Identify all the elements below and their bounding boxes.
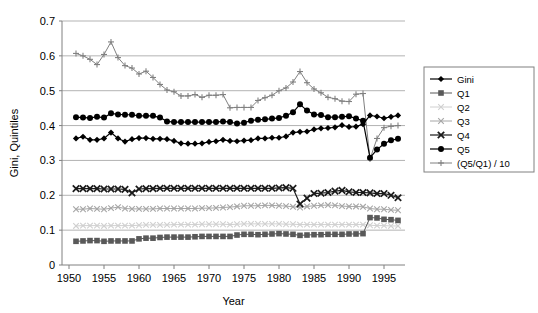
data-point bbox=[213, 119, 219, 125]
data-point bbox=[269, 116, 275, 122]
data-point bbox=[178, 93, 184, 99]
data-point bbox=[332, 96, 338, 102]
data-point bbox=[115, 238, 121, 244]
data-point bbox=[374, 147, 380, 153]
x-tick-label: 1995 bbox=[372, 272, 396, 284]
data-point bbox=[220, 137, 226, 143]
data-point bbox=[395, 112, 401, 118]
series-q2 bbox=[73, 221, 401, 229]
data-point bbox=[178, 234, 184, 240]
data-point bbox=[199, 140, 205, 146]
data-point bbox=[346, 124, 352, 130]
data-point bbox=[276, 115, 282, 121]
data-point bbox=[283, 133, 289, 139]
data-point bbox=[164, 118, 170, 124]
data-point bbox=[353, 116, 359, 122]
y-tick-label: 0.7 bbox=[40, 15, 55, 27]
data-point bbox=[332, 114, 338, 120]
data-point bbox=[192, 119, 198, 125]
data-point bbox=[213, 138, 219, 144]
data-point bbox=[297, 201, 303, 207]
y-tick-label: 0.6 bbox=[40, 50, 55, 62]
data-point bbox=[360, 231, 366, 237]
data-point bbox=[241, 232, 247, 238]
data-point bbox=[101, 238, 107, 244]
data-point bbox=[255, 117, 261, 123]
data-point bbox=[304, 232, 310, 238]
data-point bbox=[346, 231, 352, 237]
data-point bbox=[227, 119, 233, 125]
data-point bbox=[353, 231, 359, 237]
data-point bbox=[241, 104, 247, 110]
data-point bbox=[276, 231, 282, 237]
data-point bbox=[150, 113, 156, 119]
data-point bbox=[185, 141, 191, 147]
data-point bbox=[213, 92, 219, 98]
data-point bbox=[171, 89, 177, 95]
data-point bbox=[241, 120, 247, 126]
data-point bbox=[73, 135, 79, 141]
data-point bbox=[325, 232, 331, 238]
data-point bbox=[136, 236, 142, 242]
data-point bbox=[374, 135, 380, 141]
data-point bbox=[290, 232, 296, 238]
data-point bbox=[87, 137, 93, 143]
x-tick-label: 1965 bbox=[162, 272, 186, 284]
x-tick-label: 1955 bbox=[92, 272, 116, 284]
data-point bbox=[339, 122, 345, 128]
data-point bbox=[129, 112, 135, 118]
data-point bbox=[206, 139, 212, 145]
x-tick-label: 1985 bbox=[302, 272, 326, 284]
data-point bbox=[269, 135, 275, 141]
data-point bbox=[157, 115, 163, 121]
data-point bbox=[101, 51, 107, 57]
data-point bbox=[80, 134, 86, 140]
data-point bbox=[94, 137, 100, 143]
legend-label: (Q5/Q1) / 10 bbox=[457, 158, 510, 169]
data-point bbox=[381, 115, 387, 121]
data-point bbox=[367, 155, 373, 161]
data-point bbox=[276, 135, 282, 141]
data-point bbox=[150, 235, 156, 241]
data-point bbox=[206, 119, 212, 125]
data-point bbox=[248, 232, 254, 238]
data-point bbox=[178, 140, 184, 146]
legend-label: Q4 bbox=[457, 130, 470, 141]
legend-label: Q1 bbox=[457, 88, 470, 99]
data-point bbox=[339, 98, 345, 104]
chart-figure: 00.10.20.30.40.50.60.7 19501955196019651… bbox=[0, 0, 538, 313]
x-tick-label: 1950 bbox=[57, 272, 81, 284]
legend-label: Q2 bbox=[457, 102, 470, 113]
data-point bbox=[234, 138, 240, 144]
data-point bbox=[220, 92, 226, 98]
data-point bbox=[73, 114, 79, 120]
y-tick-label: 0.2 bbox=[40, 189, 55, 201]
data-point bbox=[185, 234, 191, 240]
data-point bbox=[381, 217, 387, 223]
data-point bbox=[192, 234, 198, 240]
data-point bbox=[318, 125, 324, 131]
data-point bbox=[94, 238, 100, 244]
series-q3 bbox=[73, 202, 401, 213]
x-tick-label: 1980 bbox=[267, 272, 291, 284]
y-axis-ticks: 00.10.20.30.40.50.60.7 bbox=[40, 15, 62, 271]
data-point bbox=[381, 141, 387, 147]
data-point bbox=[108, 39, 114, 45]
data-point bbox=[262, 135, 268, 141]
data-point bbox=[234, 120, 240, 126]
data-point bbox=[304, 195, 310, 201]
data-point bbox=[220, 118, 226, 124]
data-point bbox=[199, 94, 205, 100]
data-point bbox=[388, 137, 394, 143]
y-tick-label: 0.4 bbox=[40, 120, 55, 132]
data-point bbox=[143, 135, 149, 141]
data-point bbox=[164, 136, 170, 142]
data-point bbox=[129, 136, 135, 142]
legend: GiniQ1Q2Q3Q4Q5(Q5/Q1) / 10 bbox=[424, 67, 534, 172]
data-point bbox=[290, 109, 296, 115]
data-point bbox=[227, 138, 233, 144]
data-point bbox=[346, 113, 352, 119]
series-q1 bbox=[73, 215, 401, 244]
data-point bbox=[80, 238, 86, 244]
data-point bbox=[297, 101, 303, 107]
